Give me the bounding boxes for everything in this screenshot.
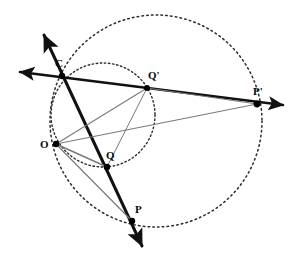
large-circle-through-P-and-P-prime [50, 15, 262, 227]
point-label-p1: P' [253, 86, 263, 97]
point-marker-o [53, 141, 59, 147]
point-marker-c [59, 73, 65, 79]
point-label-q: Q [106, 150, 115, 161]
thin-segment-O-to-P [56, 144, 132, 221]
point-label-c: C [55, 58, 63, 69]
point-marker-p [129, 218, 135, 224]
geometry-canvas [0, 0, 292, 258]
point-label-p: P [135, 204, 142, 215]
point-label-q1: Q' [148, 70, 160, 81]
point-marker-p1 [254, 101, 261, 108]
thin-segment-Q-prime-to-P-prime [147, 88, 257, 104]
circles-layer [50, 15, 262, 227]
geometry-diagram: CQ'P'OQP [0, 0, 292, 258]
point-marker-q1 [144, 85, 150, 91]
point-marker-q [104, 164, 110, 170]
point-label-o: O [40, 139, 49, 150]
points-layer [53, 73, 261, 224]
